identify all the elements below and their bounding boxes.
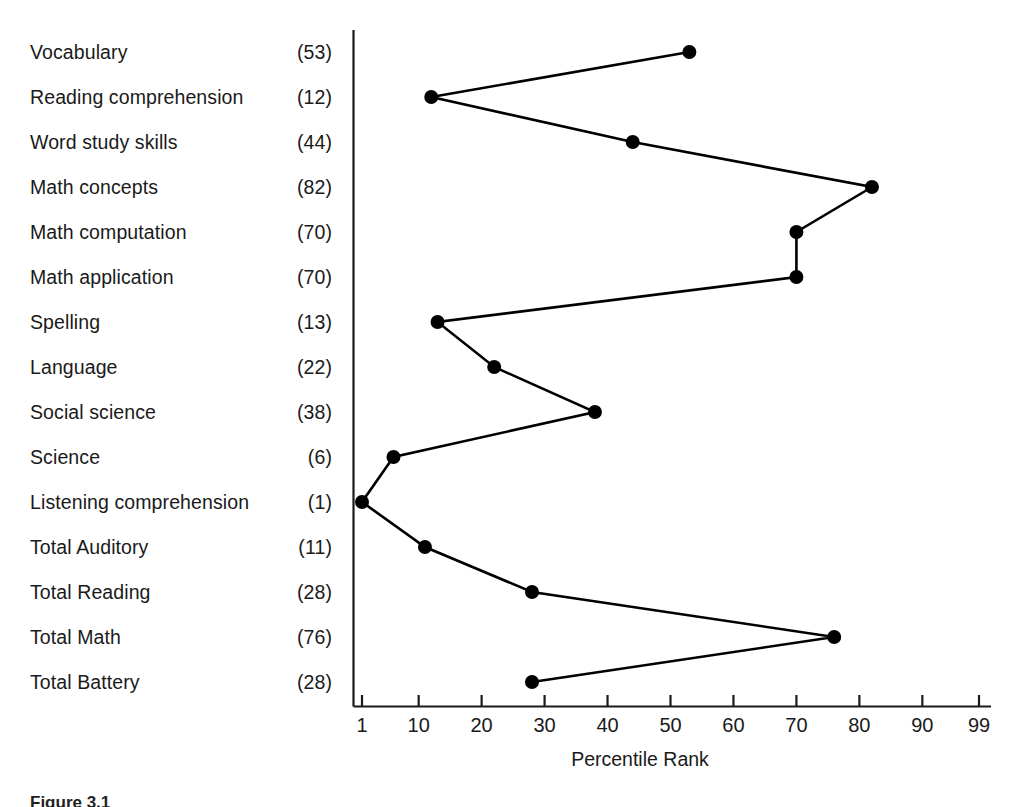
data-point-marker bbox=[424, 90, 438, 104]
x-tick-label: 20 bbox=[452, 714, 512, 737]
x-tick-label: 30 bbox=[515, 714, 575, 737]
x-tick-label: 1 bbox=[332, 714, 392, 737]
x-axis-ticks bbox=[362, 695, 979, 707]
plot-area bbox=[0, 0, 1024, 807]
data-point-marker bbox=[789, 225, 803, 239]
data-point-marker bbox=[431, 315, 445, 329]
data-point-marker bbox=[827, 630, 841, 644]
chart-svg bbox=[0, 0, 1024, 807]
data-point-marker bbox=[626, 135, 640, 149]
x-tick-label: 50 bbox=[641, 714, 701, 737]
data-point-marker bbox=[525, 585, 539, 599]
x-tick-label: 10 bbox=[389, 714, 449, 737]
data-point-marker bbox=[386, 450, 400, 464]
x-tick-label: 90 bbox=[892, 714, 952, 737]
data-point-marker bbox=[865, 180, 879, 194]
data-point-marker bbox=[418, 540, 432, 554]
data-point-marker bbox=[487, 360, 501, 374]
x-tick-label: 40 bbox=[578, 714, 638, 737]
data-point-markers bbox=[355, 45, 879, 689]
chart-axes bbox=[354, 30, 992, 707]
data-polyline bbox=[362, 52, 872, 682]
data-point-marker bbox=[588, 405, 602, 419]
figure-caption: Figure 3.1 bbox=[30, 793, 110, 807]
data-point-marker bbox=[789, 270, 803, 284]
percentile-rank-profile-figure: Vocabulary(53)Reading comprehension(12)W… bbox=[0, 0, 1024, 807]
data-point-marker bbox=[525, 675, 539, 689]
x-tick-label: 99 bbox=[949, 714, 1009, 737]
x-axis-title: Percentile Rank bbox=[500, 748, 780, 771]
data-point-marker bbox=[355, 495, 369, 509]
x-tick-label: 60 bbox=[703, 714, 763, 737]
x-tick-label: 70 bbox=[766, 714, 826, 737]
x-tick-label: 80 bbox=[829, 714, 889, 737]
data-point-marker bbox=[682, 45, 696, 59]
